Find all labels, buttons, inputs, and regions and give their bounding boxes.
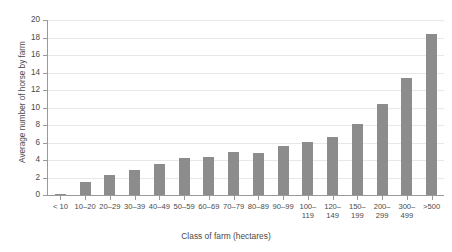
bar xyxy=(426,34,437,195)
x-tick-label: 200– 299 xyxy=(370,202,395,220)
y-tick-mark xyxy=(43,108,47,109)
x-tick-label: 300– 499 xyxy=(395,202,420,220)
bar xyxy=(154,164,165,196)
x-tick-mark xyxy=(209,196,210,200)
y-tick-mark xyxy=(43,160,47,161)
bar-chart: Average number of horse by farm 02468101… xyxy=(0,0,452,252)
y-tick-mark xyxy=(43,195,47,196)
x-tick-mark xyxy=(407,196,408,200)
bar xyxy=(55,194,66,195)
y-tick-label: 2 xyxy=(22,174,40,182)
y-tick-mark xyxy=(43,125,47,126)
bar xyxy=(104,175,115,195)
y-tick-mark xyxy=(43,178,47,179)
y-tick-mark xyxy=(43,73,47,74)
bar xyxy=(179,158,190,195)
x-tick-mark xyxy=(184,196,185,200)
x-tick-mark xyxy=(357,196,358,200)
bar xyxy=(129,170,140,195)
bar xyxy=(302,142,313,195)
bar xyxy=(80,182,91,195)
y-tick-label: 16 xyxy=(22,51,40,59)
x-tick-label: 60–69 xyxy=(197,202,222,211)
y-tick-mark xyxy=(43,20,47,21)
y-tick-label: 14 xyxy=(22,69,40,77)
gridline xyxy=(48,195,444,196)
x-tick-label: 30–39 xyxy=(122,202,147,211)
bar xyxy=(253,153,264,195)
x-tick-mark xyxy=(234,196,235,200)
x-tick-label: 50–59 xyxy=(172,202,197,211)
bar xyxy=(228,152,239,195)
x-tick-mark xyxy=(308,196,309,200)
x-tick-label: 150– 199 xyxy=(345,202,370,220)
x-tick-mark xyxy=(382,196,383,200)
bar xyxy=(327,137,338,195)
bar xyxy=(377,104,388,195)
x-tick-label: 100– 119 xyxy=(296,202,321,220)
y-tick-mark xyxy=(43,90,47,91)
bar xyxy=(203,157,214,195)
bar xyxy=(401,78,412,195)
y-tick-label: 12 xyxy=(22,86,40,94)
bar xyxy=(278,146,289,195)
x-tick-label: 40–49 xyxy=(147,202,172,211)
x-tick-mark xyxy=(333,196,334,200)
x-tick-label: 10–20 xyxy=(73,202,98,211)
x-tick-mark xyxy=(159,196,160,200)
x-tick-mark xyxy=(432,196,433,200)
bar xyxy=(352,124,363,195)
x-tick-label: 120– 149 xyxy=(320,202,345,220)
x-tick-mark xyxy=(258,196,259,200)
y-tick-mark xyxy=(43,143,47,144)
y-tick-label: 0 xyxy=(22,191,40,199)
x-tick-label: 20–29 xyxy=(98,202,123,211)
y-tick-label: 18 xyxy=(22,34,40,42)
plot-area xyxy=(48,20,444,195)
y-tick-mark xyxy=(43,55,47,56)
y-tick-mark xyxy=(43,38,47,39)
y-tick-label: 6 xyxy=(22,139,40,147)
x-tick-label: 90–99 xyxy=(271,202,296,211)
x-tick-mark xyxy=(135,196,136,200)
x-tick-label: < 10 xyxy=(48,202,73,211)
x-axis-title: Class of farm (hectares) xyxy=(0,231,452,241)
x-tick-label: 80–89 xyxy=(246,202,271,211)
y-tick-label: 10 xyxy=(22,104,40,112)
y-tick-label: 8 xyxy=(22,121,40,129)
x-tick-label: 70–79 xyxy=(221,202,246,211)
y-tick-label: 20 xyxy=(22,16,40,24)
y-tick-label: 4 xyxy=(22,156,40,164)
x-tick-mark xyxy=(283,196,284,200)
x-tick-label: >500 xyxy=(419,202,444,211)
x-tick-mark xyxy=(60,196,61,200)
x-tick-mark xyxy=(110,196,111,200)
x-tick-mark xyxy=(85,196,86,200)
